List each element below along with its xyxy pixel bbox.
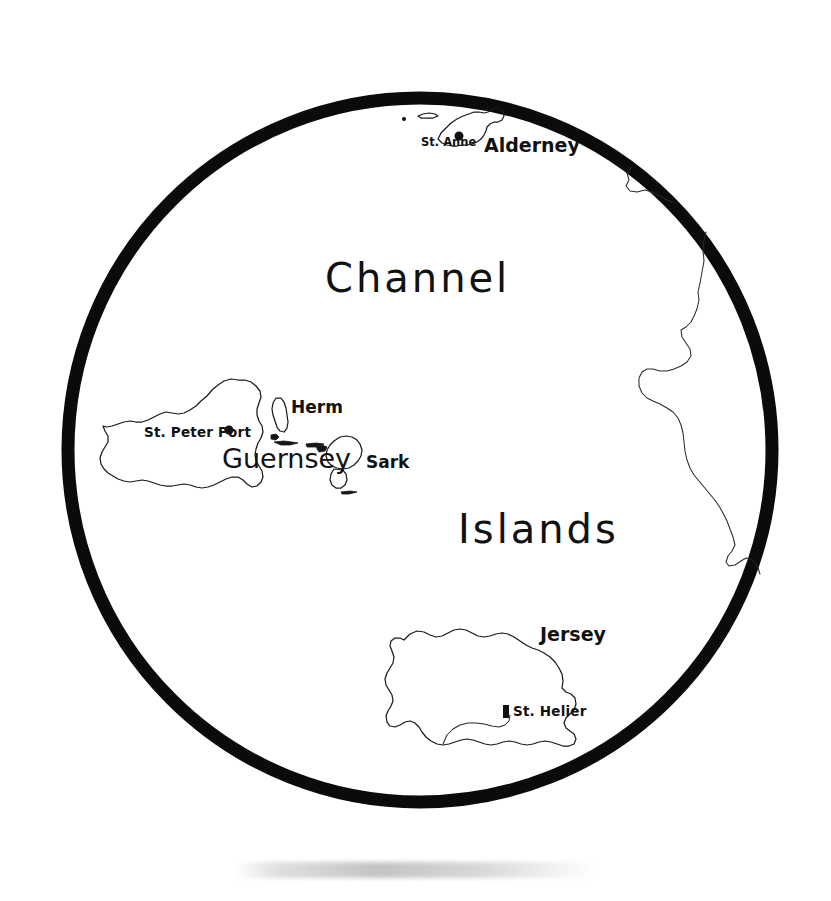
st-helier-town-dot xyxy=(503,705,509,718)
map-canvas: Channel Islands Alderney Guernsey Herm S… xyxy=(0,0,831,901)
region-label-channel: Channel xyxy=(325,255,510,301)
burhou-islet xyxy=(418,113,438,118)
normandy-coastline xyxy=(639,232,760,574)
jethou-islet xyxy=(271,434,279,440)
island-label-guernsey: Guernsey xyxy=(222,443,351,474)
island-label-sark: Sark xyxy=(366,452,410,472)
island-label-jersey: Jersey xyxy=(538,623,607,645)
island-label-alderney: Alderney xyxy=(484,134,580,156)
town-label-st-peter-port: St. Peter Port xyxy=(144,424,251,440)
town-label-st-anne: St. Anne xyxy=(421,135,476,149)
st-aubins-bay-coast xyxy=(443,715,510,744)
region-label-islands: Islands xyxy=(458,506,619,552)
sark-south-rocks xyxy=(341,491,357,494)
alderney-rock-islet xyxy=(402,117,405,120)
town-label-st-helier: St. Helier xyxy=(513,703,587,719)
map-graphic: Channel Islands Alderney Guernsey Herm S… xyxy=(0,0,831,901)
jersey-outline xyxy=(385,629,576,746)
island-label-herm: Herm xyxy=(291,397,343,417)
herm-outline xyxy=(272,398,288,432)
scan-artifact-smudge xyxy=(235,862,595,878)
map-frame-circle xyxy=(68,98,772,802)
